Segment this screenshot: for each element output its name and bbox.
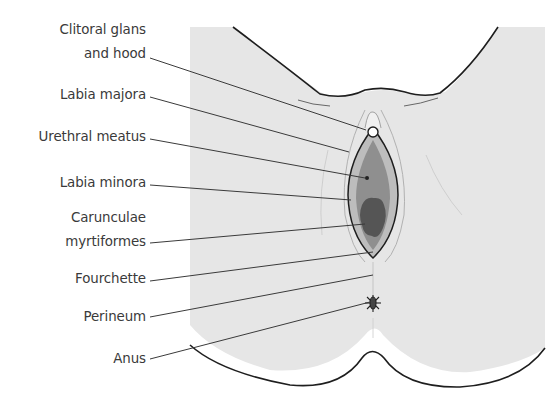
label-carunculae: Carunculae <box>71 207 146 229</box>
label-perineum: Perineum <box>83 306 146 328</box>
label-urethral-meatus: Urethral meatus <box>39 126 146 148</box>
urethral-meatus-dot <box>365 176 369 180</box>
label-myrtiformes: myrtiformes <box>65 231 146 253</box>
label-clitoral-glans: Clitoral glans <box>60 19 146 41</box>
label-clitoral-hood: and hood <box>84 43 146 65</box>
label-labia-minora: Labia minora <box>60 172 146 194</box>
label-labia-majora: Labia majora <box>60 84 146 106</box>
clitoral-glans <box>368 127 378 137</box>
label-fourchette: Fourchette <box>75 268 146 290</box>
label-anus: Anus <box>113 348 146 370</box>
